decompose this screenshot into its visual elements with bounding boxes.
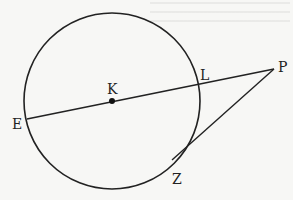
label-k: K <box>107 82 117 96</box>
label-z: Z <box>172 172 182 186</box>
geometry-diagram: E K L P Z <box>0 0 293 200</box>
secant-ep <box>27 69 274 119</box>
label-e: E <box>12 117 22 131</box>
label-l: L <box>200 68 209 82</box>
label-p: P <box>278 60 287 74</box>
tangent-pz <box>172 69 274 160</box>
diagram-canvas <box>0 0 293 200</box>
center-point-k <box>109 98 115 104</box>
